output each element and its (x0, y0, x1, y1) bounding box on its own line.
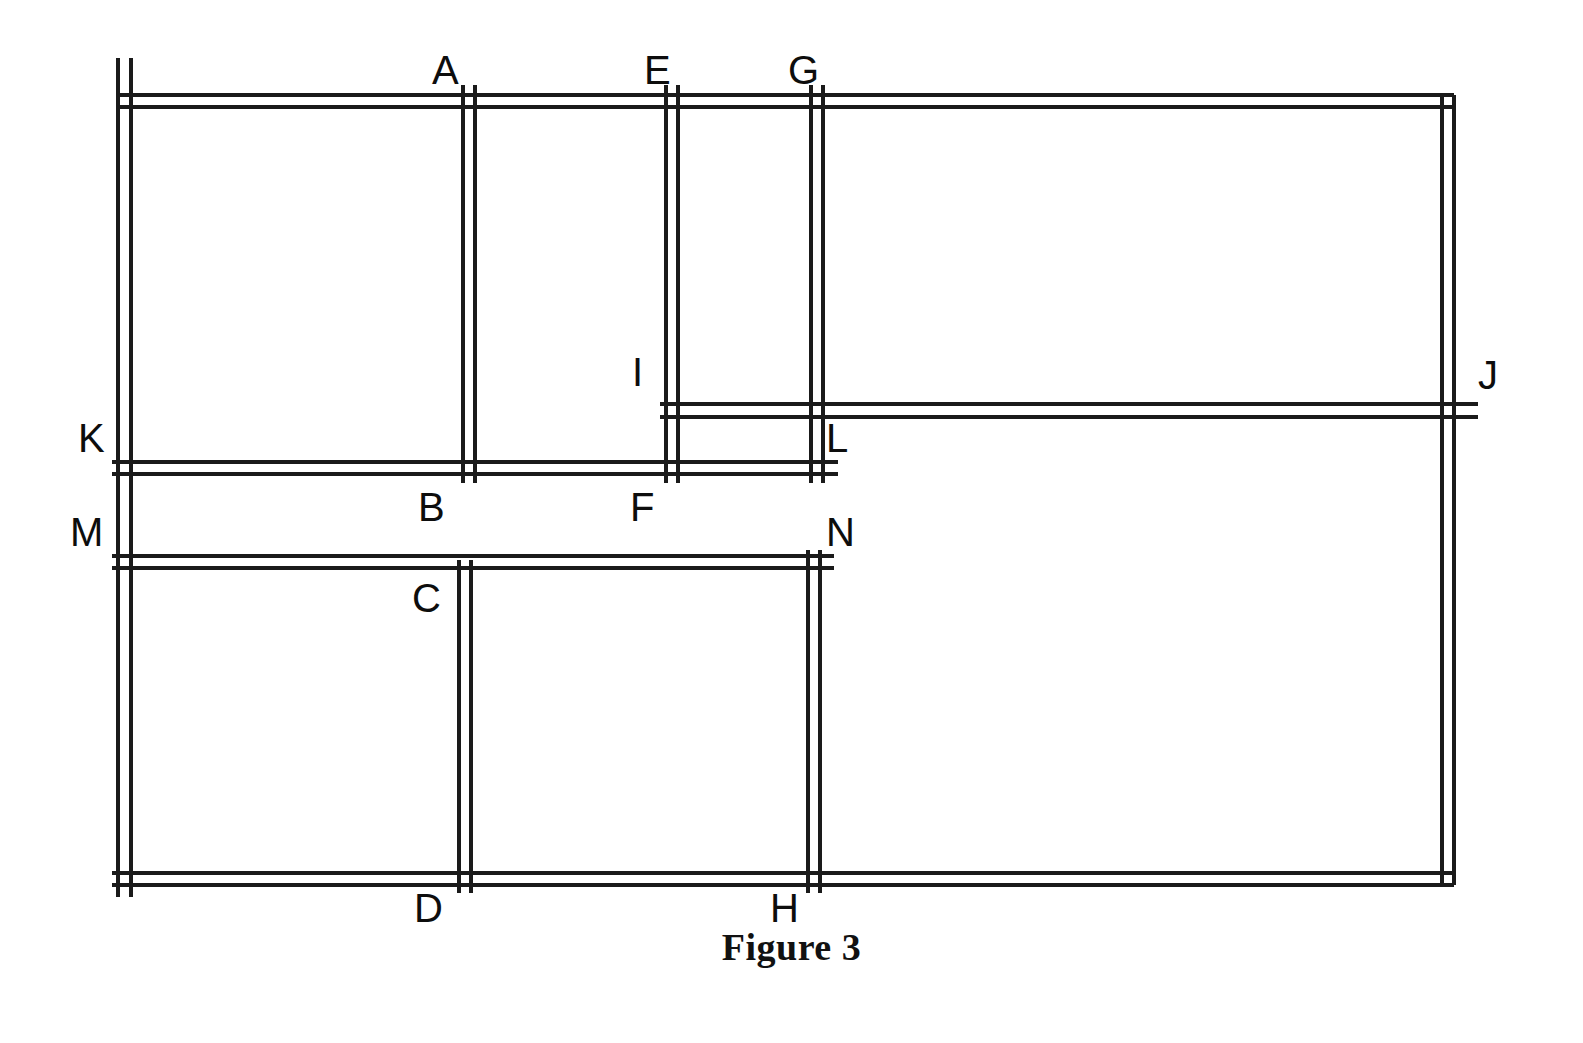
vertex-label-n: N (826, 512, 855, 552)
vertex-label-e: E (644, 50, 671, 90)
vertex-label-i: I (632, 352, 643, 392)
vertex-label-d: D (414, 888, 443, 928)
wall-line-group (112, 58, 1478, 897)
figure-container: ABCDEFGHIJKLMN Figure 3 (0, 0, 1583, 1043)
vertex-label-a: A (432, 50, 459, 90)
vertex-label-h: H (770, 888, 799, 928)
vertex-label-g: G (788, 50, 819, 90)
vertex-label-j: J (1478, 355, 1498, 395)
vertex-label-k: K (78, 418, 105, 458)
vertex-label-m: M (70, 512, 103, 552)
vertex-label-b: B (418, 487, 445, 527)
figure-caption: Figure 3 (0, 925, 1583, 969)
vertex-label-c: C (412, 578, 441, 618)
vertex-label-f: F (630, 487, 654, 527)
vertex-label-l: L (826, 418, 848, 458)
